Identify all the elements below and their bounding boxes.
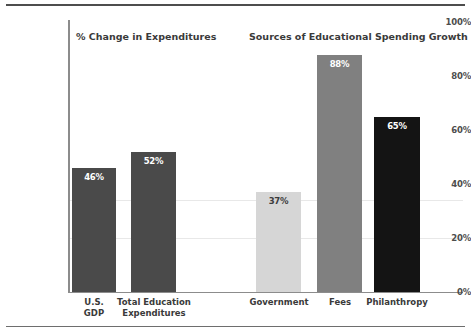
x-label-total-education-expenditures-line2: Expenditures [114,308,194,319]
y-tick-100: 100% [409,17,471,27]
bar-value-total-education-expenditures: 52% [131,156,176,166]
x-label-fees: Fees [314,297,366,308]
x-label-total-education-expenditures-line1: Total Education [114,297,194,308]
bar-value-philanthropy: 65% [374,121,420,131]
bar-us-gdp[interactable]: 46% [72,168,116,292]
y-axis-line [68,20,70,293]
panel-title-expenditures: % Change in Expenditures [76,31,216,42]
x-label-government-line1: Government [243,297,315,308]
plot-area: 100% 80% 60% 40% 20% 0% % Change in Expe… [0,0,471,335]
bar-value-us-gdp: 46% [72,172,116,182]
x-label-philanthropy-line1: Philanthropy [362,297,432,308]
x-label-total-education-expenditures: Total Education Expenditures [114,297,194,319]
bar-value-fees: 88% [317,59,362,69]
x-label-government: Government [243,297,315,308]
bar-total-education-expenditures[interactable]: 52% [131,152,176,292]
x-label-philanthropy: Philanthropy [362,297,432,308]
chart-figure: 100% 80% 60% 40% 20% 0% % Change in Expe… [0,0,471,335]
bar-government[interactable]: 37% [256,192,301,292]
y-tick-80: 80% [409,71,471,81]
panel-title-sources: Sources of Educational Spending Growth [249,31,468,42]
x-label-fees-line1: Fees [314,297,366,308]
x-axis-line [68,292,463,293]
bar-value-government: 37% [256,196,301,206]
bar-fees[interactable]: 88% [317,55,362,292]
bar-philanthropy[interactable]: 65% [374,117,420,292]
